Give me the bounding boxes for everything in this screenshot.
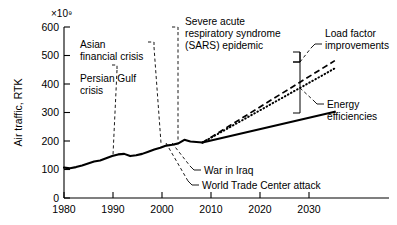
annotation-energy-line2: efficiencies <box>327 111 377 122</box>
y-tick-label-400: 400 <box>41 78 59 90</box>
annotation-energy-line1: Energy <box>327 99 360 110</box>
air-traffic-chart: 0 100 200 300 400 500 600 ×10⁹ Air traff… <box>0 0 397 225</box>
x-tick-label-2020: 2020 <box>248 203 272 215</box>
y-tick-label-300: 300 <box>41 106 59 118</box>
x-tick-label-1980: 1980 <box>52 203 76 215</box>
annotation-load-factor-line2: improvements <box>325 40 389 51</box>
annotation-persian-gulf-line2: crisis <box>80 85 103 96</box>
annotation-war-in-iraq: War in Iraq <box>204 165 254 176</box>
annotation-sars-line2: respiratory syndrome <box>185 28 281 39</box>
annotation-sars-line3: (SARS) epidemic <box>185 40 263 51</box>
x-tick-label-2000: 2000 <box>150 203 174 215</box>
annotation-load-factor-line1: Load factor <box>325 28 377 39</box>
annotation-persian-gulf-line1: Persian Gulf <box>80 73 136 84</box>
y-tick-label-600: 600 <box>41 21 59 33</box>
y-tick-label-500: 500 <box>41 49 59 61</box>
chart-canvas: 0 100 200 300 400 500 600 ×10⁹ Air traff… <box>0 0 397 225</box>
annotation-wtc-attack: World Trade Center attack <box>202 180 322 191</box>
annotation-sars-line1: Severe acute <box>185 16 245 27</box>
y-tick-label-100: 100 <box>41 163 59 175</box>
x-tick-label-2030: 2030 <box>297 203 321 215</box>
x-tick-label-1990: 1990 <box>101 203 125 215</box>
x-tick-label-2010: 2010 <box>199 203 223 215</box>
y-axis-exponent-label: ×10⁹ <box>51 8 72 19</box>
annotation-asian-crisis-line2: financial crisis <box>80 51 143 62</box>
y-tick-label-0: 0 <box>53 192 59 204</box>
y-tick-label-200: 200 <box>41 135 59 147</box>
annotation-asian-crisis-line1: Asian <box>80 39 105 50</box>
y-axis-title: Air traffic, RTK <box>12 79 24 147</box>
